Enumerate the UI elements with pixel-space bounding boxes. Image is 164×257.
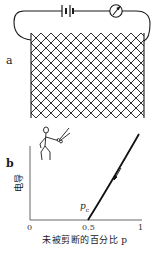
panel-b-label: b — [6, 158, 14, 169]
diagram-canvas — [0, 0, 164, 257]
mesh-wire — [31, 93, 56, 118]
pc-label: pc — [80, 202, 89, 213]
panel-a-label: a — [6, 55, 13, 66]
battery-icon — [62, 5, 73, 17]
mesh-wire — [121, 33, 144, 56]
mesh-wire — [31, 73, 76, 118]
conductance-curve — [88, 134, 139, 220]
wire-right — [122, 11, 150, 41]
mesh-wire — [71, 33, 144, 106]
mesh-wire — [31, 63, 86, 118]
mesh-wire — [126, 100, 144, 118]
mesh-wire — [96, 70, 144, 118]
mesh-wire — [106, 80, 144, 118]
x-tick-0-5: 0.5 — [82, 224, 95, 232]
wire-mesh-grid — [31, 33, 144, 118]
mesh-wire — [131, 33, 144, 46]
pc-label-sub: c — [86, 206, 89, 213]
x-tick-1: 1 — [138, 224, 143, 232]
person-with-scissors-icon — [40, 127, 70, 160]
mesh-wire — [31, 113, 36, 118]
x-axis-label: 未被剪断的百分比 p — [42, 236, 128, 245]
mesh-wire — [81, 33, 144, 96]
circuit — [14, 5, 150, 41]
mesh-wire — [76, 50, 144, 118]
meter-icon — [110, 5, 122, 17]
mesh-wire — [31, 43, 106, 118]
mesh-wire — [66, 40, 144, 118]
y-axis-label: 电导 — [15, 174, 24, 192]
x-tick-0: 0 — [27, 224, 32, 232]
mesh-wire — [136, 110, 144, 118]
mesh-wire — [61, 33, 144, 116]
